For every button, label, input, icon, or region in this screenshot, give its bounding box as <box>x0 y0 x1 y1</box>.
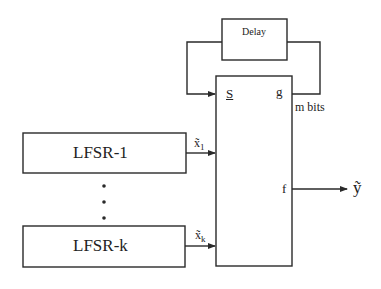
g-output-label: g <box>276 85 283 98</box>
m-bits-label: m bits <box>295 101 325 113</box>
lfsr-1-label: LFSR-1 <box>73 144 128 161</box>
ellipsis-dots <box>102 184 106 220</box>
xk-label: x̃k <box>195 229 206 241</box>
delay-label: Delay <box>242 27 266 37</box>
combiner-block <box>216 76 292 266</box>
feedback-line-delay-to-s <box>187 42 222 94</box>
x1-label: x̃1 <box>194 137 205 149</box>
state-input-label: S <box>226 87 233 100</box>
y-output-label: ỹ <box>353 179 362 196</box>
diagram-canvas <box>0 0 381 289</box>
f-output-label: f <box>282 182 286 195</box>
lfsr-k-label: LFSR-k <box>73 237 128 254</box>
